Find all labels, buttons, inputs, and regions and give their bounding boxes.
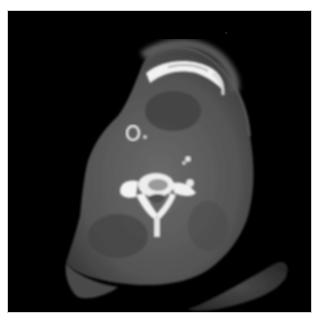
- noise-artifact: [225, 32, 227, 34]
- ct-scan-canvas: [8, 11, 312, 313]
- soft-tissue: [66, 46, 254, 285]
- ct-scan-image: [7, 10, 312, 313]
